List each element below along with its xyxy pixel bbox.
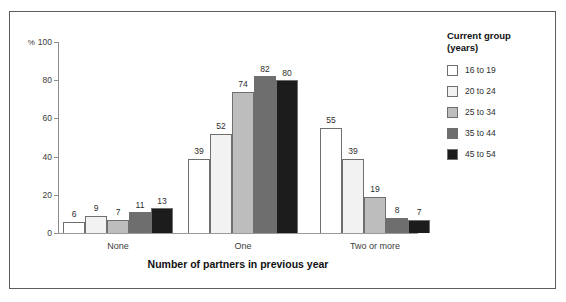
bar-column: 8 [386, 42, 408, 233]
legend-entry-label: 25 to 34 [465, 108, 496, 117]
plot-area: 020406080%100 6971113None3952748280One55… [58, 42, 418, 233]
bar[interactable] [151, 208, 173, 233]
y-axis-tick [54, 157, 58, 158]
bar-value-label: 19 [364, 185, 386, 194]
bar-group: 3952748280One [188, 42, 298, 233]
y-axis-tick-label: 40 [43, 152, 52, 161]
legend-entry-label: 35 to 44 [465, 129, 496, 138]
bar-column: 9 [85, 42, 107, 233]
legend-entry[interactable]: 20 to 24 [447, 84, 547, 98]
bar-column: 82 [254, 42, 276, 233]
y-axis-tick-value: 40 [43, 151, 52, 161]
y-axis-tick [54, 195, 58, 196]
legend-entry[interactable]: 35 to 44 [447, 126, 547, 140]
legend-color-swatch [447, 128, 458, 139]
bar-column: 74 [232, 42, 254, 233]
x-axis-line [58, 233, 418, 234]
bar-value-label: 80 [276, 69, 298, 78]
y-axis-tick [54, 42, 58, 43]
bar-group: 6971113None [63, 42, 173, 233]
bar-value-label: 7 [107, 208, 129, 217]
y-axis-tick-value: 80 [43, 75, 52, 85]
y-axis-tick-value: 60 [43, 113, 52, 123]
bar-column: 52 [210, 42, 232, 233]
y-axis-tick-label: 0 [47, 229, 52, 238]
y-axis-tick-label: 20 [43, 191, 52, 200]
y-axis-tick [54, 80, 58, 81]
bar[interactable] [188, 159, 210, 233]
legend-entry[interactable]: 25 to 34 [447, 105, 547, 119]
x-axis-category-label: None [63, 241, 173, 251]
bar-column: 39 [342, 42, 364, 233]
y-axis-tick-label: %100 [28, 38, 52, 47]
bar-group-bars: 6971113 [63, 42, 173, 233]
bar-value-label: 74 [232, 80, 254, 89]
legend-title: Current group (years) [447, 30, 547, 54]
bar[interactable] [386, 218, 408, 233]
legend-entry-label: 20 to 24 [465, 87, 496, 96]
bar-value-label: 39 [188, 147, 210, 156]
y-axis-unit-label: % [28, 38, 35, 47]
legend-entry[interactable]: 45 to 54 [447, 147, 547, 161]
x-axis-category-label: One [188, 241, 298, 251]
y-axis-tick [54, 118, 58, 119]
bar-group-bars: 55391987 [320, 42, 430, 233]
legend-entries: 16 to 1920 to 2425 to 3435 to 4445 to 54 [447, 63, 547, 161]
y-axis-tick-value: 100 [38, 37, 52, 47]
bar[interactable] [129, 212, 151, 233]
bar-column: 11 [129, 42, 151, 233]
bar-column: 19 [364, 42, 386, 233]
bar-value-label: 9 [85, 204, 107, 213]
x-axis-title: Number of partners in previous year [58, 258, 418, 270]
y-axis-tick [54, 233, 58, 234]
y-axis-tick-label: 60 [43, 114, 52, 123]
bar-value-label: 52 [210, 122, 232, 131]
legend-color-swatch [447, 107, 458, 118]
legend-color-swatch [447, 86, 458, 97]
bar-value-label: 6 [63, 210, 85, 219]
y-axis-line [58, 42, 59, 233]
bar-column: 7 [107, 42, 129, 233]
bar-column: 55 [320, 42, 342, 233]
bar-group-bars: 3952748280 [188, 42, 298, 233]
legend-entry-label: 16 to 19 [465, 66, 496, 75]
bar-column: 7 [408, 42, 430, 233]
chart-figure: 020406080%100 6971113None3952748280One55… [0, 0, 566, 302]
bar[interactable] [408, 220, 430, 233]
bar[interactable] [232, 92, 254, 233]
bar[interactable] [63, 222, 85, 233]
legend-entry-label: 45 to 54 [465, 150, 496, 159]
bar-value-label: 55 [320, 116, 342, 125]
legend: Current group (years) 16 to 1920 to 2425… [447, 30, 547, 168]
bar-value-label: 82 [254, 65, 276, 74]
bar-column: 13 [151, 42, 173, 233]
bar[interactable] [364, 197, 386, 233]
bar-column: 80 [276, 42, 298, 233]
bar[interactable] [210, 134, 232, 233]
bar[interactable] [276, 80, 298, 233]
bar-value-label: 7 [408, 208, 430, 217]
bar[interactable] [85, 216, 107, 233]
bar-group: 55391987Two or more [320, 42, 430, 233]
y-axis-tick-label: 80 [43, 76, 52, 85]
bar[interactable] [254, 76, 276, 233]
legend-entry[interactable]: 16 to 19 [447, 63, 547, 77]
bar[interactable] [107, 220, 129, 233]
legend-color-swatch [447, 149, 458, 160]
bar[interactable] [320, 128, 342, 233]
bar-value-label: 8 [386, 206, 408, 215]
bar-value-label: 11 [129, 201, 151, 210]
bar-column: 39 [188, 42, 210, 233]
bar-column: 6 [63, 42, 85, 233]
y-axis-tick-value: 20 [43, 190, 52, 200]
legend-color-swatch [447, 65, 458, 76]
y-axis-tick-value: 0 [47, 228, 52, 238]
bar-value-label: 39 [342, 147, 364, 156]
bar-value-label: 13 [151, 197, 173, 206]
x-axis-category-label: Two or more [320, 241, 430, 251]
bar[interactable] [342, 159, 364, 233]
